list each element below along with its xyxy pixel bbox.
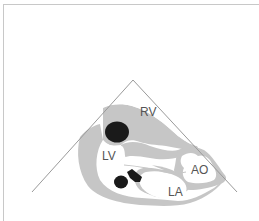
heart-diagram: RV LV AO LA (0, 0, 259, 221)
label-ao: AO (191, 163, 208, 177)
papillary-muscle-small (114, 176, 128, 189)
label-la: LA (168, 185, 183, 199)
label-lv: LV (102, 149, 116, 163)
papillary-muscle-large (105, 122, 129, 143)
label-rv: RV (140, 105, 156, 119)
